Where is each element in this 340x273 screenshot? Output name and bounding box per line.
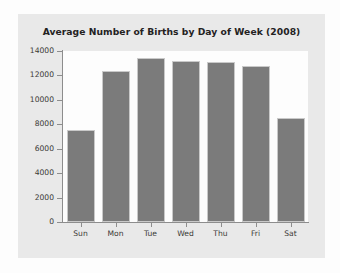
y-axis-tick-label: 2000 xyxy=(8,194,54,202)
bar-mon xyxy=(102,71,130,222)
y-axis-tick xyxy=(57,124,62,125)
x-axis-tick xyxy=(81,223,82,227)
x-axis-tick xyxy=(151,223,152,227)
x-axis-tick xyxy=(221,223,222,227)
y-axis-tick-label: 6000 xyxy=(8,145,54,153)
y-axis-tick xyxy=(57,173,62,174)
x-axis-tick-label: Wed xyxy=(166,230,206,238)
bar-tue xyxy=(137,58,165,222)
y-axis-tick xyxy=(57,100,62,101)
bar-wed xyxy=(172,61,200,222)
y-axis-tick xyxy=(57,51,62,52)
y-axis-tick xyxy=(57,222,62,223)
y-axis-tick-label: 14000 xyxy=(8,47,54,55)
y-axis-tick xyxy=(57,75,62,76)
x-axis-tick-label: Thu xyxy=(201,230,241,238)
y-axis-tick xyxy=(57,198,62,199)
bar-series xyxy=(63,51,308,222)
x-axis-tick xyxy=(116,223,117,227)
bar-sat xyxy=(277,118,305,222)
x-axis-tick xyxy=(256,223,257,227)
x-axis-tick-label: Mon xyxy=(96,230,136,238)
chart-title: Average Number of Births by Day of Week … xyxy=(18,14,325,37)
x-axis-tick-label: Fri xyxy=(236,230,276,238)
y-axis-tick-label: 12000 xyxy=(8,71,54,79)
x-axis-tick-label: Sat xyxy=(271,230,311,238)
y-axis-tick xyxy=(57,149,62,150)
chart-figure: Average Number of Births by Day of Week … xyxy=(0,0,340,273)
bar-fri xyxy=(242,66,270,222)
x-axis-tick-label: Tue xyxy=(131,230,171,238)
x-axis-tick xyxy=(291,223,292,227)
y-axis-tick-label: 0 xyxy=(8,218,54,226)
y-axis-tick-label: 10000 xyxy=(8,96,54,104)
bar-sun xyxy=(67,130,95,222)
x-axis-tick xyxy=(186,223,187,227)
y-axis-tick-label: 4000 xyxy=(8,169,54,177)
y-axis-tick-label: 8000 xyxy=(8,120,54,128)
bar-thu xyxy=(207,62,235,222)
x-axis-tick-label: Sun xyxy=(61,230,101,238)
